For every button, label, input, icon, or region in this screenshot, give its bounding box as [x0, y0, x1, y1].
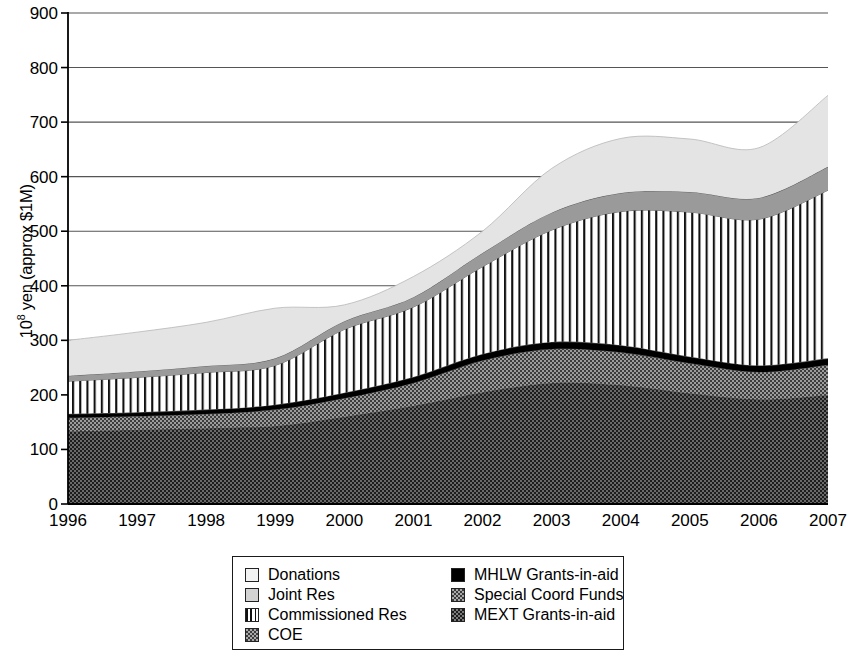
legend-item[interactable]: Special Coord Funds — [451, 585, 623, 605]
legend-label: MHLW Grants-in-aid — [474, 567, 619, 583]
legend-column-right: MHLW Grants-in-aidSpecial Coord FundsMEX… — [451, 565, 623, 625]
legend-item[interactable]: COE — [245, 625, 407, 645]
legend-item[interactable]: Donations — [245, 565, 407, 585]
legend-label: Joint Res — [268, 587, 335, 603]
axis-ticks — [61, 13, 68, 504]
legend-item[interactable]: Commissioned Res — [245, 605, 407, 625]
legend-label: MEXT Grants-in-aid — [474, 607, 615, 623]
legend-item[interactable]: Joint Res — [245, 585, 407, 605]
chart-legend: DonationsJoint ResCommissioned ResCOE MH… — [232, 556, 624, 650]
donations-swatch — [245, 568, 259, 582]
legend-item[interactable]: MEXT Grants-in-aid — [451, 605, 623, 625]
legend-label: Special Coord Funds — [474, 587, 623, 603]
stacked-area-chart-figure: 108 yen (approx $1M) 0100200300400500600… — [0, 0, 852, 658]
special-coord-swatch — [451, 588, 465, 602]
legend-label: Commissioned Res — [268, 607, 407, 623]
mext-swatch — [451, 608, 465, 622]
stacked-areas — [68, 95, 828, 504]
mhlw-swatch — [451, 568, 465, 582]
joint-res-swatch — [245, 588, 259, 602]
legend-label: COE — [268, 627, 303, 643]
legend-column-left: DonationsJoint ResCommissioned ResCOE — [245, 565, 407, 645]
legend-label: Donations — [268, 567, 340, 583]
coe-swatch — [245, 628, 259, 642]
commissioned-res-swatch — [245, 608, 259, 622]
legend-item[interactable]: MHLW Grants-in-aid — [451, 565, 623, 585]
